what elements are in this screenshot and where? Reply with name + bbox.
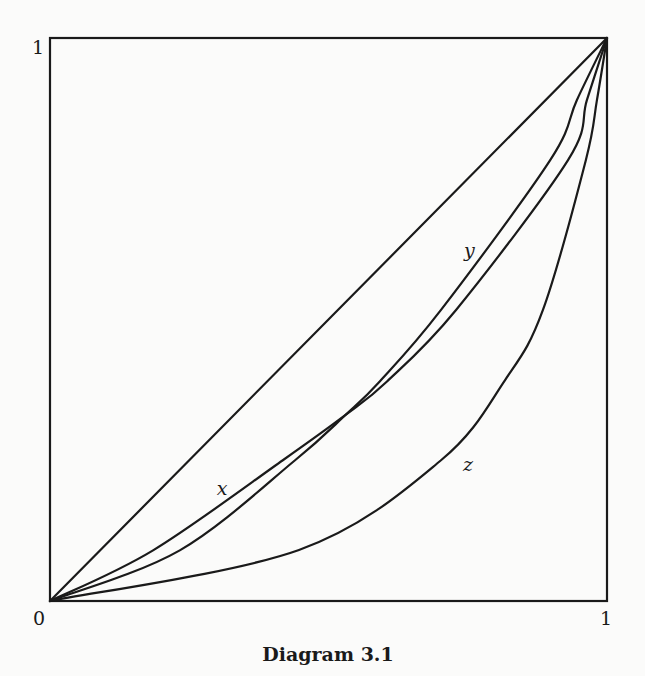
curve-label-x: x (217, 477, 228, 499)
curve-label-y: y (463, 239, 475, 261)
origin-label: 0 (33, 607, 45, 629)
diagram-3-1: 1 0 1 x y z Diagram 3.1 (0, 0, 645, 676)
curve-diagonal (50, 38, 607, 601)
diagram-caption: Diagram 3.1 (262, 643, 393, 665)
curve-label-z: z (462, 453, 474, 475)
y-axis-max-label: 1 (32, 36, 44, 58)
x-axis-max-label: 1 (600, 607, 612, 629)
